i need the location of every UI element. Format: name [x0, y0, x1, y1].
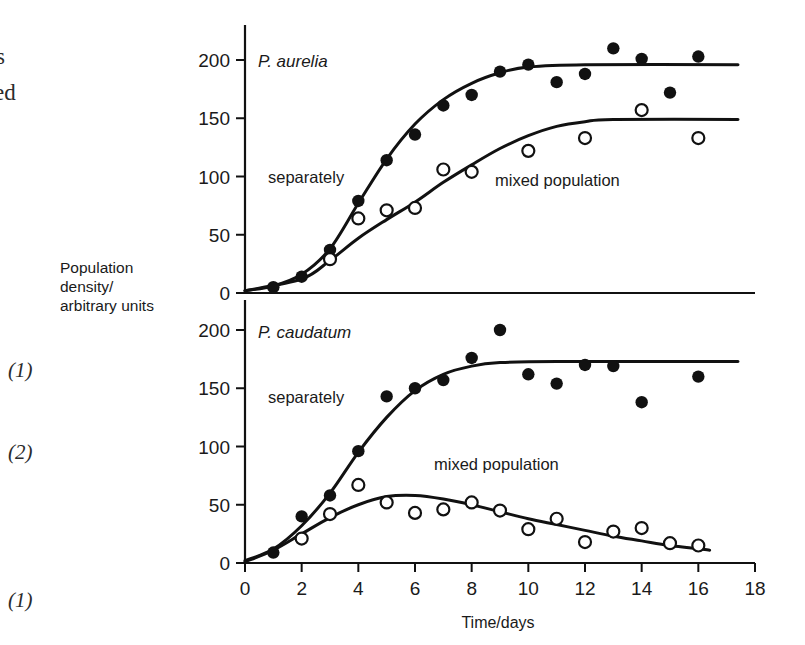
y-tick-label: 150 — [198, 108, 230, 129]
x-tick-label: 14 — [631, 578, 653, 599]
y-tick-label: 50 — [209, 495, 230, 516]
data-point-mixed — [664, 537, 676, 549]
data-point-mixed — [522, 145, 534, 157]
data-point-separately — [352, 445, 364, 457]
axes-p-caudatum: 050100150200024681012141618 — [198, 300, 765, 599]
y-tick-label: 150 — [198, 378, 230, 399]
data-point-separately — [437, 374, 449, 386]
data-points-p-caudatum — [267, 324, 704, 559]
data-point-mixed — [324, 508, 336, 520]
y-tick-label: 200 — [198, 320, 230, 341]
x-tick-label: 10 — [518, 578, 539, 599]
data-point-mixed — [409, 507, 421, 519]
x-axis-title: Time/days — [461, 614, 534, 631]
data-point-separately — [607, 360, 619, 372]
x-tick-label: 6 — [410, 578, 421, 599]
y-tick-label: 50 — [209, 225, 230, 246]
x-tick-label: 0 — [240, 578, 251, 599]
data-point-separately — [324, 489, 336, 501]
data-point-mixed — [522, 523, 534, 535]
data-point-separately — [692, 370, 704, 382]
data-point-mixed — [466, 166, 478, 178]
data-point-mixed — [579, 536, 591, 548]
data-point-mixed — [352, 479, 364, 491]
data-point-mixed — [437, 164, 449, 176]
series-label-mixed-aurelia: mixed population — [495, 171, 620, 189]
data-point-separately — [692, 50, 704, 62]
data-point-mixed — [409, 202, 421, 214]
data-point-mixed — [324, 253, 336, 265]
series-label-separately-caudatum: separately — [268, 388, 345, 406]
y-tick-label: 0 — [219, 283, 230, 304]
data-point-mixed — [579, 132, 591, 144]
y-tick-label: 0 — [219, 553, 230, 574]
data-point-separately — [522, 58, 534, 70]
data-point-mixed — [692, 132, 704, 144]
chart-panel-p-aurelia: 050100150200 P. aurelia separately mixed… — [198, 25, 755, 304]
x-tick-label: 4 — [353, 578, 364, 599]
data-point-mixed — [381, 204, 393, 216]
data-point-separately — [579, 68, 591, 80]
series-label-separately-aurelia: separately — [268, 168, 345, 186]
data-point-mixed — [636, 104, 648, 116]
data-point-separately — [579, 359, 591, 371]
figure-page: s ed (1) (2) (1) Population density/ arb… — [0, 0, 805, 645]
data-point-mixed — [607, 526, 619, 538]
data-point-mixed — [494, 505, 506, 517]
data-point-separately — [465, 89, 477, 101]
series-label-mixed-caudatum: mixed population — [434, 455, 559, 473]
data-point-mixed — [381, 496, 393, 508]
data-point-separately — [267, 281, 279, 293]
data-point-separately — [380, 390, 392, 402]
chart-title-p-caudatum: P. caudatum — [258, 323, 351, 342]
data-point-mixed — [551, 513, 563, 525]
x-tick-label: 18 — [744, 578, 765, 599]
data-point-mixed — [636, 522, 648, 534]
data-point-separately — [380, 154, 392, 166]
data-point-separately — [409, 128, 421, 140]
data-point-separately — [465, 352, 477, 364]
y-tick-label: 100 — [198, 167, 230, 188]
data-point-separately — [409, 382, 421, 394]
paramecium-competition-figure: 050100150200 P. aurelia separately mixed… — [0, 0, 805, 645]
data-point-separately — [352, 195, 364, 207]
y-tick-label: 200 — [198, 50, 230, 71]
data-point-separately — [295, 510, 307, 522]
data-point-separately — [494, 324, 506, 336]
data-point-mixed — [352, 212, 364, 224]
data-point-separately — [607, 42, 619, 54]
chart-title-p-aurelia: P. aurelia — [258, 52, 328, 71]
data-point-separately — [267, 546, 279, 558]
data-point-separately — [522, 368, 534, 380]
data-point-separately — [635, 396, 647, 408]
x-tick-label: 16 — [688, 578, 709, 599]
data-point-separately — [494, 65, 506, 77]
x-tick-label: 12 — [574, 578, 595, 599]
data-point-separately — [635, 53, 647, 65]
data-point-separately — [550, 76, 562, 88]
data-point-mixed — [437, 503, 449, 515]
chart-panel-p-caudatum: 050100150200024681012141618 P. caudatum … — [198, 300, 765, 631]
data-point-separately — [437, 99, 449, 111]
data-point-separately — [295, 270, 307, 282]
x-tick-label: 2 — [296, 578, 307, 599]
data-point-mixed — [692, 540, 704, 552]
data-point-separately — [550, 377, 562, 389]
data-point-separately — [664, 86, 676, 98]
x-tick-label: 8 — [466, 578, 477, 599]
data-point-mixed — [296, 533, 308, 545]
data-point-mixed — [466, 496, 478, 508]
fit-curve-mixed-population — [245, 119, 738, 290]
y-tick-label: 100 — [198, 437, 230, 458]
